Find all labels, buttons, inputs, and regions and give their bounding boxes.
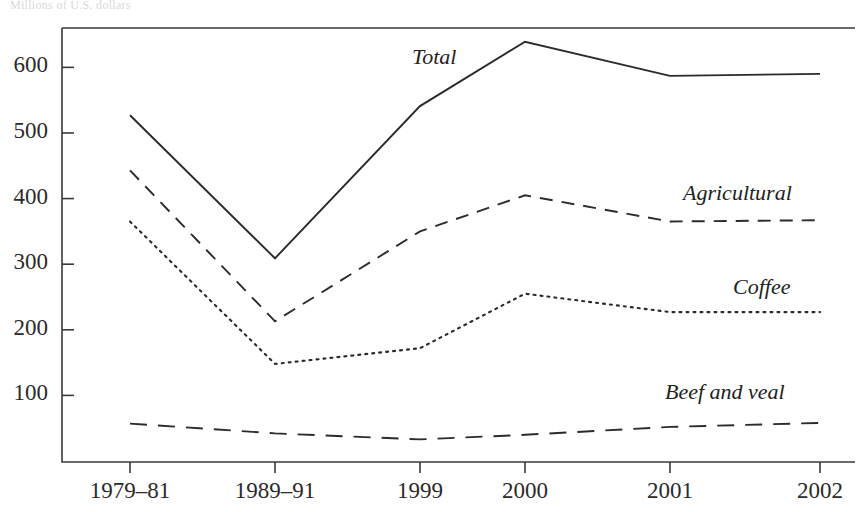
- x-axis-ticks: [130, 462, 820, 473]
- series-label-coffee: Coffee: [733, 274, 790, 300]
- series-label-beef-and-veal: Beef and veal: [665, 379, 785, 405]
- series-line-beef-and-veal: [130, 423, 820, 440]
- y-axis-ticks: [62, 67, 74, 395]
- y-axis-tick-label: 400: [0, 184, 48, 210]
- y-axis-tick-label: 300: [0, 249, 48, 275]
- y-axis-tick-label: 600: [0, 52, 48, 78]
- chart-figure: Millions of U.S. dollars 100200300400500…: [0, 0, 866, 512]
- series-label-agricultural: Agricultural: [683, 180, 792, 206]
- series-line-coffee: [130, 222, 820, 364]
- y-axis-tick-label: 100: [0, 380, 48, 406]
- y-axis-tick-label: 500: [0, 118, 48, 144]
- series-label-total: Total: [412, 44, 456, 70]
- series-line-total: [130, 42, 820, 258]
- chart-plot-area: [0, 0, 866, 512]
- y-axis-tick-label: 200: [0, 315, 48, 341]
- x-axis-tick-label: 2002: [730, 478, 866, 504]
